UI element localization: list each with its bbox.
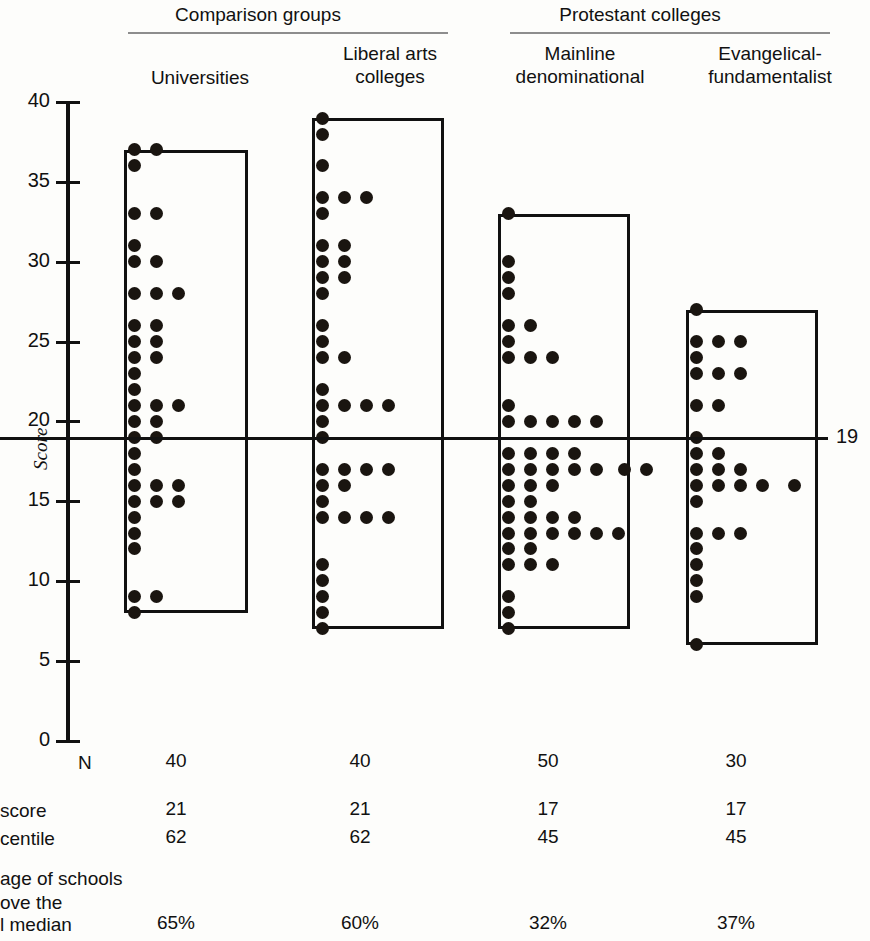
data-point-dot bbox=[690, 463, 703, 476]
data-point-dot bbox=[316, 511, 329, 524]
data-point-dot bbox=[502, 335, 515, 348]
data-point-dot bbox=[128, 287, 141, 300]
data-point-dot bbox=[338, 351, 351, 364]
data-point-dot bbox=[734, 335, 747, 348]
data-point-dot bbox=[128, 590, 141, 603]
group-header-rule-protestant bbox=[510, 32, 830, 34]
data-point-dot bbox=[618, 463, 631, 476]
summary-cell: 40 bbox=[126, 750, 226, 772]
data-point-dot bbox=[690, 367, 703, 380]
summary-cell: 17 bbox=[686, 798, 786, 820]
data-point-dot bbox=[128, 207, 141, 220]
data-point-dot bbox=[150, 319, 163, 332]
data-point-dot bbox=[690, 351, 703, 364]
data-point-dot bbox=[128, 542, 141, 555]
data-point-dot bbox=[690, 527, 703, 540]
data-point-dot bbox=[524, 542, 537, 555]
data-point-dot bbox=[128, 527, 141, 540]
data-point-dot bbox=[502, 542, 515, 555]
group-header-comparison: Comparison groups bbox=[128, 4, 388, 26]
data-point-dot bbox=[546, 463, 559, 476]
data-point-dot bbox=[546, 558, 559, 571]
data-point-dot bbox=[712, 367, 725, 380]
data-point-dot bbox=[712, 399, 725, 412]
summary-cell: 62 bbox=[126, 826, 226, 848]
data-point-dot bbox=[128, 606, 141, 619]
data-point-dot bbox=[316, 351, 329, 364]
data-point-dot bbox=[568, 463, 581, 476]
summary-row-label: score bbox=[0, 798, 46, 824]
data-point-dot bbox=[150, 399, 163, 412]
data-point-dot bbox=[316, 255, 329, 268]
data-point-dot bbox=[338, 463, 351, 476]
data-point-dot bbox=[524, 447, 537, 460]
data-point-dot bbox=[546, 479, 559, 492]
column-header-mainline: Mainlinedenominational bbox=[485, 42, 675, 88]
column-header-liberal-arts: Liberal artscolleges bbox=[300, 42, 480, 88]
data-point-dot bbox=[316, 383, 329, 396]
y-axis-tick bbox=[56, 580, 80, 583]
data-point-dot bbox=[382, 511, 395, 524]
summary-cell: 40 bbox=[310, 750, 410, 772]
data-point-dot bbox=[338, 239, 351, 252]
data-point-dot bbox=[502, 463, 515, 476]
data-point-dot bbox=[360, 191, 373, 204]
data-point-dot bbox=[338, 479, 351, 492]
y-axis-tick-label: 10 bbox=[0, 568, 50, 591]
data-point-dot bbox=[524, 415, 537, 428]
data-point-dot bbox=[734, 463, 747, 476]
data-point-dot bbox=[316, 606, 329, 619]
summary-row-label: l median bbox=[0, 912, 72, 938]
data-point-dot bbox=[502, 271, 515, 284]
data-point-dot bbox=[546, 415, 559, 428]
summary-cell: 17 bbox=[498, 798, 598, 820]
data-point-dot bbox=[690, 574, 703, 587]
data-point-dot bbox=[502, 527, 515, 540]
data-point-dot bbox=[502, 558, 515, 571]
summary-cell: 65% bbox=[126, 912, 226, 934]
data-point-dot bbox=[590, 415, 603, 428]
summary-cell: 50 bbox=[498, 750, 598, 772]
data-point-dot bbox=[172, 287, 185, 300]
data-point-dot bbox=[128, 383, 141, 396]
y-axis-tick-label: 15 bbox=[0, 488, 50, 511]
data-point-dot bbox=[150, 351, 163, 364]
y-axis-title: Score bbox=[30, 427, 52, 470]
data-point-dot bbox=[568, 527, 581, 540]
data-point-dot bbox=[502, 207, 515, 220]
data-point-dot bbox=[316, 239, 329, 252]
data-point-dot bbox=[150, 143, 163, 156]
data-point-dot bbox=[316, 335, 329, 348]
data-point-dot bbox=[690, 399, 703, 412]
chart-canvas: Comparison groups Protestant colleges Un… bbox=[0, 0, 870, 941]
data-point-dot bbox=[502, 399, 515, 412]
data-point-dot bbox=[690, 638, 703, 651]
data-point-dot bbox=[128, 239, 141, 252]
data-point-dot bbox=[338, 191, 351, 204]
data-point-dot bbox=[524, 319, 537, 332]
data-point-dot bbox=[502, 415, 515, 428]
y-axis-tick bbox=[56, 740, 80, 743]
data-point-dot bbox=[316, 319, 329, 332]
data-point-dot bbox=[128, 351, 141, 364]
data-point-dot bbox=[734, 527, 747, 540]
data-point-dot bbox=[546, 351, 559, 364]
data-point-dot bbox=[568, 511, 581, 524]
data-point-dot bbox=[128, 495, 141, 508]
data-point-dot bbox=[150, 207, 163, 220]
data-point-dot bbox=[640, 463, 653, 476]
group-header-rule-comparison bbox=[128, 32, 448, 34]
data-point-dot bbox=[382, 399, 395, 412]
y-axis-tick bbox=[56, 181, 80, 184]
y-axis-tick bbox=[56, 420, 80, 423]
summary-cell: 37% bbox=[686, 912, 786, 934]
data-point-dot bbox=[690, 590, 703, 603]
median-reference-label: 19 bbox=[836, 425, 858, 448]
data-point-dot bbox=[734, 367, 747, 380]
data-point-dot bbox=[338, 255, 351, 268]
summary-row-label: centile bbox=[0, 826, 55, 852]
data-point-dot bbox=[316, 128, 329, 141]
range-box bbox=[686, 310, 818, 645]
summary-cell: 32% bbox=[498, 912, 598, 934]
data-point-dot bbox=[690, 447, 703, 460]
